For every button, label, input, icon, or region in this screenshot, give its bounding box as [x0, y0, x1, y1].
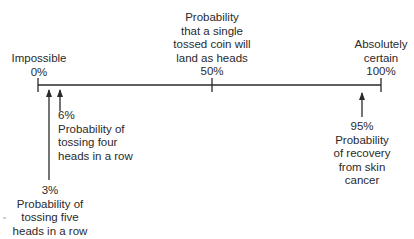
arrow-skin-cancer [359, 92, 365, 117]
label-line: that a single [162, 25, 262, 39]
label-impossible: Impossible 0% [4, 52, 74, 79]
label-line: heads in a row [58, 150, 133, 164]
label-line: 100% [346, 65, 414, 79]
label-line: land as heads [162, 52, 262, 66]
scale-axis [38, 78, 381, 92]
label-line: tossed coin will [162, 38, 262, 52]
label-line: 95% [327, 120, 397, 134]
arrow-five-heads [46, 89, 52, 180]
label-five-heads: 3% Probability of tossing five heads in … [10, 184, 90, 238]
label-certain: Absolutely certain 100% [346, 38, 414, 79]
label-line: 3% [10, 184, 90, 198]
label-line: Probability of [58, 123, 133, 137]
label-line: Probability [162, 11, 262, 25]
label-skin-cancer: 95% Probability of recovery from skin ca… [327, 120, 397, 188]
arrow-four-heads [57, 89, 63, 111]
label-line: Absolutely [346, 38, 414, 52]
label-line: Probability [327, 134, 397, 148]
label-line: 0% [4, 66, 74, 80]
label-line: 6% [58, 109, 133, 123]
label-line: tossing four [58, 136, 133, 150]
label-line: cancer [327, 174, 397, 188]
label-line: from skin [327, 161, 397, 175]
label-line: 50% [162, 65, 262, 79]
label-coin: Probability that a single tossed coin wi… [162, 11, 262, 79]
label-line: tossing five [10, 211, 90, 225]
label-four-heads: 6% Probability of tossing four heads in … [58, 109, 133, 163]
label-line: certain [346, 52, 414, 66]
label-line: Probability of [10, 198, 90, 212]
label-line: heads in a row [10, 225, 90, 239]
label-line: of recovery [327, 147, 397, 161]
label-line: Impossible [4, 52, 74, 66]
